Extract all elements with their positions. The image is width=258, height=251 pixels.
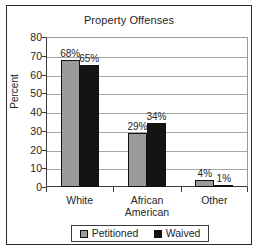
y-axis-tick-label: 20	[20, 145, 42, 156]
bar-value-label: 1%	[207, 174, 241, 184]
bar-petitioned-white	[61, 60, 80, 188]
chart-legend: PetitionedWaived	[71, 225, 209, 242]
x-axis-label-white: White	[46, 194, 114, 206]
x-axis-tick-mark	[247, 187, 248, 192]
y-axis-tick-label: 0	[20, 182, 42, 193]
y-axis-tick-label: 80	[20, 32, 42, 43]
x-axis-label-line: African	[131, 194, 164, 206]
bar-value-label: 65%	[72, 54, 106, 64]
legend-label: Waived	[166, 228, 201, 239]
bar-value-label: 34%	[140, 112, 174, 122]
bar-value-label: 29%	[121, 122, 155, 132]
x-axis-label-african-american: AfricanAmerican	[113, 194, 181, 218]
x-axis-label-line: American	[113, 206, 181, 218]
x-axis-category-labels: WhiteAfricanAmericanOther	[46, 194, 248, 222]
x-axis-label-line: White	[66, 194, 93, 206]
y-axis-tick-label: 40	[20, 107, 42, 118]
y-axis-tick-label: 10	[20, 163, 42, 174]
y-axis-tick-label: 50	[20, 88, 42, 99]
y-axis-tick-labels: 80706050403020100	[18, 37, 42, 187]
x-axis-tick-mark	[113, 187, 114, 192]
y-axis-tick-label: 70	[20, 51, 42, 62]
bar-petitioned-african-american	[128, 133, 147, 187]
x-axis-label-other: Other	[180, 194, 248, 206]
x-axis-tick-marks	[46, 187, 248, 192]
legend-label: Petitioned	[92, 228, 139, 239]
bar-waived-white	[80, 65, 99, 187]
x-axis-tick-mark	[181, 187, 182, 192]
chart-figure: Property Offenses Percent 80706050403020…	[0, 0, 258, 251]
legend-swatch-waived	[154, 230, 162, 238]
y-axis-tick-label: 60	[20, 70, 42, 81]
bar-waived-african-american	[147, 123, 166, 187]
x-axis-label-line: Other	[201, 194, 227, 206]
x-axis-tick-mark	[46, 187, 47, 192]
legend-swatch-petitioned	[80, 230, 88, 238]
bars-layer: 68%65%29%34%4%1%	[46, 37, 248, 187]
legend-item-waived[interactable]: Waived	[154, 228, 201, 239]
chart-title: Property Offenses	[0, 14, 258, 26]
bar-group	[195, 37, 233, 187]
legend-item-petitioned[interactable]: Petitioned	[80, 228, 139, 239]
y-axis-tick-label: 30	[20, 126, 42, 137]
